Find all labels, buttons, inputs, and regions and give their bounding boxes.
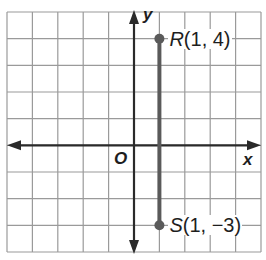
point-r-label: R(1, 4) — [168, 29, 231, 49]
x-axis-right-arrow-icon — [247, 140, 261, 150]
point-r-coords: (1, 4) — [184, 28, 231, 50]
coordinate-plane: y x O R(1, 4) S(1, −3) — [0, 0, 266, 260]
segment-rs — [154, 34, 164, 231]
y-axis-label: y — [143, 6, 152, 23]
x-axis-label: x — [243, 151, 252, 168]
point-s-label: S(1, −3) — [168, 215, 242, 235]
point-s-dot — [154, 220, 164, 230]
point-s-coords: (1, −3) — [183, 214, 241, 236]
origin-label: O — [114, 150, 127, 167]
point-s-name: S — [169, 214, 182, 236]
point-r-name: R — [169, 28, 183, 50]
point-r-dot — [154, 34, 164, 44]
x-axis-left-arrow-icon — [7, 140, 21, 150]
